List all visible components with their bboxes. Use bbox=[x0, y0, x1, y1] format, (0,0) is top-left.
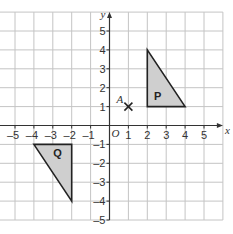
x-tick-label: –4 bbox=[26, 129, 38, 141]
x-tick-label: 4 bbox=[182, 129, 188, 141]
y-tick-label: –3 bbox=[93, 176, 105, 188]
shape-label-p: P bbox=[154, 90, 161, 102]
x-tick-label: 3 bbox=[163, 129, 169, 141]
x-axis-label: x bbox=[224, 124, 230, 136]
y-tick-label: –4 bbox=[93, 195, 105, 207]
y-tick-label: 4 bbox=[99, 44, 105, 56]
shape-label-q: Q bbox=[53, 147, 62, 159]
x-tick-label: 5 bbox=[201, 129, 207, 141]
point-a-label: A bbox=[115, 93, 123, 105]
y-tick-label: –2 bbox=[93, 157, 105, 169]
y-axis-label: y bbox=[100, 8, 106, 20]
x-tick-label: –2 bbox=[64, 129, 76, 141]
x-tick-label: –3 bbox=[45, 129, 57, 141]
y-tick-label: –1 bbox=[93, 138, 105, 150]
y-tick-label: 1 bbox=[99, 101, 105, 113]
grid-lines bbox=[0, 12, 223, 220]
origin-label: O bbox=[112, 127, 120, 139]
x-tick-label: 2 bbox=[144, 129, 150, 141]
x-tick-label: –5 bbox=[7, 129, 19, 141]
y-tick-label: –5 bbox=[93, 214, 105, 226]
y-tick-label: 3 bbox=[99, 63, 105, 75]
y-tick-label: 5 bbox=[99, 25, 105, 37]
coordinate-grid: PQ –5–4–3–2–11234554321–1–2–3–4–5OxyA bbox=[0, 0, 233, 234]
y-axis-arrow-icon bbox=[107, 12, 112, 18]
x-tick-label: 1 bbox=[125, 129, 131, 141]
y-tick-label: 2 bbox=[99, 82, 105, 94]
x-axis-arrow-icon bbox=[217, 123, 223, 128]
tick-labels: –5–4–3–2–11234554321–1–2–3–4–5OxyA bbox=[7, 8, 230, 226]
